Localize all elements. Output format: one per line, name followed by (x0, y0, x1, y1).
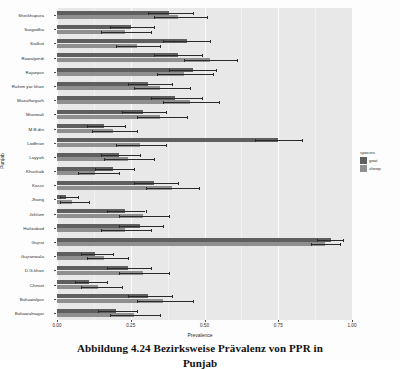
y-tick-label: Sialkot (30, 41, 44, 46)
gridline-major (205, 8, 206, 320)
error-bar-cap (122, 286, 123, 289)
error-bar (75, 282, 107, 283)
error-bar (116, 46, 160, 47)
error-bar (110, 315, 160, 316)
error-bar-cap (166, 144, 167, 147)
error-bar-cap (154, 54, 155, 57)
error-bar (169, 70, 216, 71)
legend-item[interactable]: goat (360, 157, 400, 164)
error-bar (119, 226, 163, 227)
error-bar-cap (255, 139, 256, 142)
error-bar-cap (119, 272, 120, 275)
x-tick-mark (278, 320, 279, 322)
figure-caption-line2: Punjab (0, 357, 400, 369)
x-tick-mark (57, 320, 58, 322)
error-bar-cap (134, 168, 135, 171)
error-bar (148, 13, 192, 14)
error-bar (255, 140, 302, 141)
error-bar-cap (134, 182, 135, 185)
error-bar-cap (78, 196, 79, 199)
error-bar-cap (89, 201, 90, 204)
x-tick-label: 0.50 (200, 323, 209, 328)
y-tick-mark (54, 58, 56, 59)
error-bar-cap (101, 31, 102, 34)
plot-panel (57, 8, 352, 320)
error-bar-cap (202, 54, 203, 57)
legend-key (360, 157, 367, 164)
error-bar-cap (116, 144, 117, 147)
y-tick-label: Gujrat (31, 240, 44, 245)
error-bar (81, 254, 113, 255)
legend-label: goat (369, 158, 377, 163)
error-bar-cap (184, 59, 185, 62)
error-bar-cap (128, 83, 129, 86)
y-tick-label: Lodhran (27, 140, 44, 145)
error-bar (101, 230, 151, 231)
error-bar-cap (78, 172, 79, 175)
y-tick-label: D.G.khan (25, 268, 44, 273)
y-tick-mark (54, 114, 56, 115)
y-tick-label: Rajanpur (25, 69, 44, 74)
error-bar (107, 268, 151, 269)
y-tick-mark (54, 15, 56, 16)
bar-goat (57, 238, 331, 242)
legend-items: goatsheep (360, 157, 400, 172)
error-bar-cap (101, 229, 102, 232)
error-bar-cap (178, 182, 179, 185)
y-tick-label: Bahawalnagar (15, 310, 44, 315)
error-bar-cap (187, 116, 188, 119)
error-bar (184, 60, 237, 61)
error-bar-cap (146, 210, 147, 213)
error-bar-cap (137, 116, 138, 119)
legend-item[interactable]: sheep (360, 165, 400, 172)
error-bar-cap (157, 73, 158, 76)
y-tick-mark (54, 86, 56, 87)
error-bar-cap (172, 295, 173, 298)
error-bar (119, 273, 169, 274)
error-bar-cap (302, 139, 303, 142)
legend-title: species (360, 150, 400, 155)
y-tick-label: M.B.din (28, 126, 44, 131)
error-bar-cap (213, 73, 214, 76)
y-tick-mark (54, 242, 56, 243)
error-bar-cap (169, 69, 170, 72)
error-bar-cap (160, 314, 161, 317)
error-bar-cap (137, 300, 138, 303)
error-bar-cap (343, 239, 344, 242)
error-bar-cap (199, 187, 200, 190)
error-bar-cap (75, 281, 76, 284)
legend-key (360, 165, 367, 172)
error-bar (163, 41, 210, 42)
error-bar (134, 183, 178, 184)
error-bar-cap (154, 26, 155, 29)
error-bar-cap (311, 243, 312, 246)
y-tick-label: Jhang (32, 197, 44, 202)
error-bar-cap (107, 267, 108, 270)
error-bar-cap (169, 215, 170, 218)
error-bar-cap (110, 314, 111, 317)
y-tick-mark (54, 256, 56, 257)
legend: species goatsheep (360, 150, 400, 173)
error-bar (110, 27, 154, 28)
error-bar-cap (160, 45, 161, 48)
error-bar-cap (210, 40, 211, 43)
error-bar-cap (151, 229, 152, 232)
error-bar (163, 102, 219, 103)
error-bar (134, 88, 190, 89)
error-bar-cap (151, 267, 152, 270)
error-bar-cap (137, 130, 138, 133)
error-bar-cap (163, 225, 164, 228)
error-bar-cap (134, 87, 135, 90)
error-bar (146, 188, 199, 189)
x-tick-label: 0.75 (274, 323, 283, 328)
error-bar-cap (193, 12, 194, 15)
y-tick-mark (54, 129, 56, 130)
y-tick-label: Bahawalpur (20, 296, 44, 301)
error-bar-cap (119, 215, 120, 218)
error-bar-cap (154, 158, 155, 161)
gridline-minor (315, 8, 316, 320)
y-tick-mark (54, 43, 56, 44)
error-bar-cap (317, 239, 318, 242)
error-bar-cap (81, 253, 82, 256)
